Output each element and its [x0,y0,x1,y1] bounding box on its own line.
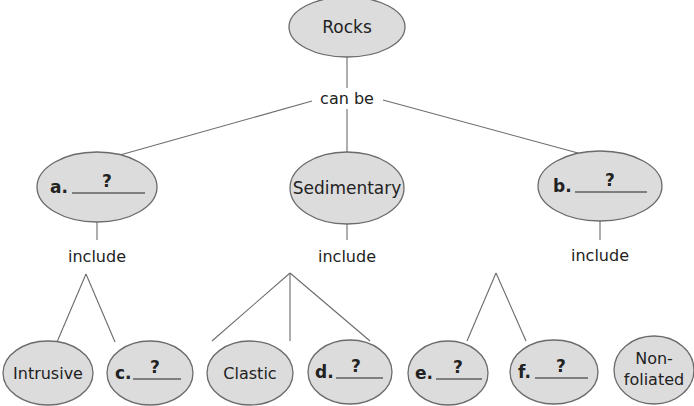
node-f-letter: f. [518,362,531,382]
node-nonfoliated-line1: Non- [635,349,673,368]
edge-include-c [86,274,115,342]
node-e-answer: ? [453,357,463,377]
edge-canbe-a [120,101,312,155]
node-nonfoliated: Non- foliated [614,336,694,404]
edge-include-e [290,273,370,341]
edge-include-nonfoliated [496,273,526,341]
edge-canbe-b [383,100,578,153]
node-c: c. ? [107,341,193,405]
link-include-sedimentary: include [318,247,376,266]
node-sedimentary-label: Sedimentary [293,178,402,198]
node-b: b. ? [538,151,662,221]
node-sedimentary: Sedimentary [290,152,404,224]
node-a: a. ? [37,152,157,222]
node-d-answer: ? [351,356,361,376]
node-intrusive: Intrusive [3,341,93,405]
node-clastic: Clastic [207,341,293,405]
node-b-answer: ? [605,170,615,190]
node-f: f. ? [510,340,598,404]
node-intrusive-label: Intrusive [13,364,83,383]
node-nonfoliated-line2: foliated [624,370,684,389]
node-a-letter: a. [50,177,68,197]
node-d-letter: d. [315,362,334,382]
node-d: d. ? [308,340,392,404]
node-c-letter: c. [115,363,132,383]
node-clastic-label: Clastic [223,364,276,383]
node-rocks-label: Rocks [322,17,372,37]
edge-include-intrusive [57,274,86,342]
node-f-answer: ? [556,356,566,376]
node-b-letter: b. [553,176,572,196]
link-include-a: include [68,247,126,266]
edge-include-f [467,273,496,341]
node-e: e. ? [408,341,488,405]
link-can-be: can be [320,89,374,108]
edge-include-clastic [212,273,290,341]
node-a-answer: ? [102,171,112,191]
link-include-b: include [571,246,629,265]
node-rocks: Rocks [289,0,405,57]
rock-concept-map: Rocks can be a. ? include Sedimentary in… [0,0,694,406]
node-e-letter: e. [415,363,433,383]
node-c-answer: ? [150,357,160,377]
